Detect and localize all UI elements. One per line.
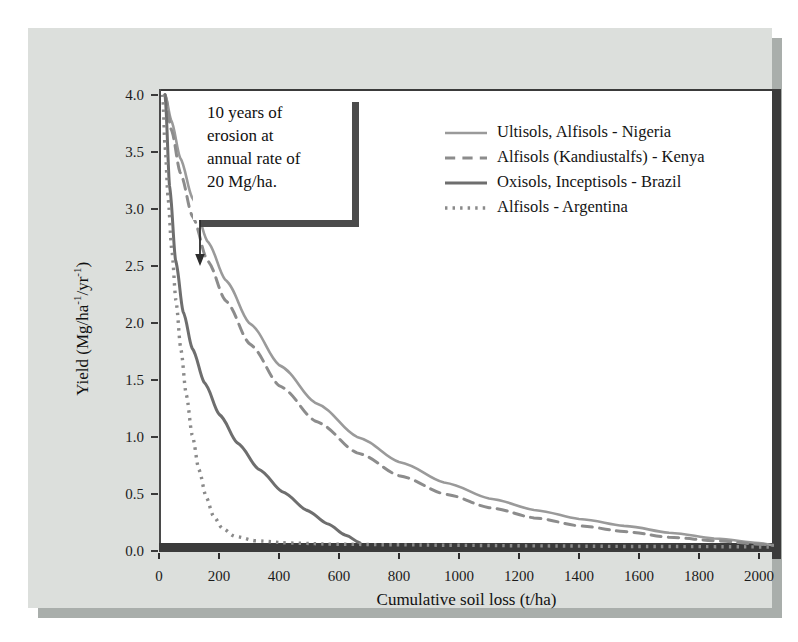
x-tick-mark [578,553,580,559]
y-axis-title-sup1: -1 [71,296,83,305]
annotation-line-1: 10 years of [207,101,344,124]
y-tick-mark [151,265,158,267]
legend-item: Alfisols - Argentina [444,195,764,220]
y-tick-label: 2.5 [104,259,144,274]
x-tick-label: 800 [371,569,427,584]
y-tick-label: 1.0 [104,430,144,445]
y-tick-label: 1.5 [104,373,144,388]
legend-item: Ultisols, Alfisols - Nigeria [444,120,764,145]
legend-line-swatch [444,151,488,165]
y-tick-mark [151,550,158,552]
x-tick-mark [278,553,280,559]
x-tick-mark [158,553,160,559]
legend-line-swatch [444,126,488,140]
x-tick-label: 400 [251,569,307,584]
x-tick-mark [758,553,760,559]
annotation-line-2: erosion at [207,124,344,147]
y-tick-mark [151,94,158,96]
y-axis-title-middle: /yr [73,277,92,296]
x-tick-mark [698,553,700,559]
legend-item: Alfisols (Kandiustalfs) - Kenya [444,145,764,170]
figure-panel: 0.00.51.01.52.02.53.03.54.0 020040060080… [28,28,772,608]
x-tick-label: 600 [311,569,367,584]
y-tick-mark [151,379,158,381]
y-axis-title-prefix: Yield (Mg/ha [73,305,92,396]
x-axis-title: Cumulative soil loss (t/ha) [159,590,774,610]
y-tick-label: 0.0 [104,544,144,559]
x-tick-mark [638,553,640,559]
chart-legend: Ultisols, Alfisols - NigeriaAlfisols (Ka… [444,120,764,220]
legend-label: Alfisols (Kandiustalfs) - Kenya [497,149,705,166]
x-tick-label: 200 [191,569,247,584]
x-tick-label: 1400 [551,569,607,584]
x-tick-label: 1200 [491,569,547,584]
legend-line-swatch [444,201,488,215]
y-tick-mark [151,151,158,153]
annotation-line-3: annual rate of [207,147,344,170]
y-tick-label: 4.0 [104,88,144,103]
annotation-line-4: 20 Mg/ha. [207,170,344,193]
x-tick-mark [458,553,460,559]
x-tick-label: 1600 [611,569,667,584]
y-tick-mark [151,322,158,324]
x-tick-label: 1000 [431,569,487,584]
y-axis-title-suffix: ) [73,262,92,268]
y-tick-mark [151,208,158,210]
x-tick-mark [518,553,520,559]
legend-line-swatch [444,176,488,190]
y-axis-title-sup2: -1 [71,267,83,276]
y-tick-mark [151,493,158,495]
y-tick-label: 0.5 [104,487,144,502]
x-tick-label: 2000 [731,569,787,584]
annotation-arrow [188,218,248,278]
y-tick-label: 3.0 [104,202,144,217]
x-tick-mark [218,553,220,559]
y-axis-title: Yield (Mg/ha-1/yr-1) [71,169,93,489]
legend-label: Oxisols, Inceptisols - Brazil [497,174,681,191]
x-tick-label: 0 [131,569,187,584]
legend-label: Alfisols - Argentina [497,199,628,216]
y-tick-label: 3.5 [104,145,144,160]
legend-label: Ultisols, Alfisols - Nigeria [497,124,671,141]
x-tick-mark [398,553,400,559]
x-tick-mark [338,553,340,559]
y-tick-label: 2.0 [104,316,144,331]
annotation-shadow-right [352,102,359,227]
x-tick-label: 1800 [671,569,727,584]
annotation-callout: 10 years of erosion at annual rate of 20… [193,95,352,220]
chart-figure: 0.00.51.01.52.02.53.03.54.0 020040060080… [0,0,798,642]
y-tick-mark [151,436,158,438]
legend-item: Oxisols, Inceptisols - Brazil [444,170,764,195]
